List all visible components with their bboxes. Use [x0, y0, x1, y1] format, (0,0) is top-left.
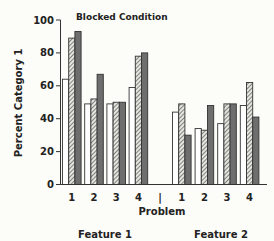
- bar-feature-2-p2-open: [195, 129, 201, 185]
- x-tick-label: 2: [201, 192, 208, 203]
- bar-feature-2-p2-hatched: [201, 130, 207, 184]
- y-tick-label: 20: [40, 146, 54, 157]
- y-axis-title: Percent Category 1: [13, 49, 24, 158]
- bar-feature-1-p4-hatched: [135, 56, 141, 184]
- y-tick-label: 0: [47, 179, 54, 190]
- x-tick-label: 3: [113, 192, 120, 203]
- panel-separator-label: |: [158, 192, 162, 204]
- y-tick-label: 40: [40, 113, 54, 124]
- x-tick-label: 4: [135, 192, 142, 203]
- bar-feature-2-p3-open: [218, 124, 224, 185]
- bar-feature-2-p1-dark: [185, 135, 191, 184]
- bar-feature-1-p2-hatched: [91, 99, 97, 185]
- bar-feature-2-p1-open: [173, 112, 179, 184]
- bar-feature-1-p3-open: [107, 104, 113, 185]
- bar-feature-1-p3-dark: [119, 102, 125, 184]
- bar-feature-2-p1-hatched: [179, 104, 185, 185]
- x-tick-label: 1: [68, 192, 75, 203]
- x-tick-label: 1: [178, 192, 185, 203]
- panel-label-feature-2: Feature 2: [194, 229, 248, 240]
- bar-feature-2-p4-dark: [253, 117, 259, 184]
- x-axis-title: Problem: [139, 206, 186, 217]
- bar-feature-2-p4-open: [240, 106, 246, 185]
- bar-feature-1-p1-hatched: [69, 38, 75, 184]
- bars-layer: [63, 32, 259, 185]
- bar-feature-1-p1-open: [63, 79, 69, 184]
- bar-feature-1-p3-hatched: [113, 102, 119, 184]
- x-tick-label: 2: [91, 192, 98, 203]
- bar-feature-1-p4-dark: [142, 53, 148, 185]
- x-tick-label: 3: [224, 192, 231, 203]
- y-tick-label: 100: [33, 15, 54, 26]
- y-tick-label: 60: [40, 80, 54, 91]
- bar-feature-2-p4-hatched: [247, 83, 253, 185]
- x-tick-label: 4: [246, 192, 253, 203]
- y-tick-label: 80: [40, 47, 54, 58]
- bar-feature-1-p1-dark: [75, 32, 81, 185]
- bar-feature-1-p2-dark: [97, 74, 103, 184]
- bar-feature-2-p3-dark: [230, 104, 236, 185]
- chart-title: Blocked Condition: [76, 12, 168, 22]
- bar-feature-2-p3-hatched: [224, 104, 230, 185]
- bar-feature-2-p2-dark: [208, 106, 214, 185]
- bar-chart: 020406080100 12341234 Blocked Condition …: [0, 0, 274, 241]
- y-ticks: 020406080100: [33, 15, 60, 191]
- bar-feature-1-p2-open: [85, 104, 91, 185]
- panel-label-feature-1: Feature 1: [78, 229, 132, 240]
- bar-feature-1-p4-open: [129, 87, 135, 184]
